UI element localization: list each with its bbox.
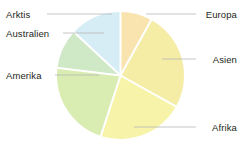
pie-label-europa: Europa (206, 9, 237, 20)
pie-label-arktis: Arktis (6, 9, 30, 20)
pie-label-afrika: Afrika (212, 122, 237, 133)
pie-chart-container: Arktis Australien Amerika Europa Asien A… (0, 0, 243, 154)
pie-label-asien: Asien (213, 54, 237, 65)
pie-label-australien: Australien (6, 28, 49, 39)
pie-label-amerika: Amerika (6, 70, 42, 81)
